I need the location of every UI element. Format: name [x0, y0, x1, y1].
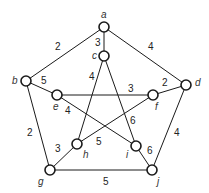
node-j [147, 165, 157, 175]
node-h [72, 139, 82, 149]
node-e [52, 90, 62, 100]
edge-weight-d-j: 4 [174, 127, 180, 138]
edge-weight-d-f: 2 [162, 77, 168, 88]
node-labels-layer: abcdefghij [12, 9, 201, 187]
node-label-a: a [101, 9, 107, 20]
node-f [148, 90, 158, 100]
edge-weight-i-j: 6 [147, 145, 153, 156]
node-a [99, 22, 109, 32]
weighted-graph-diagram: 243522454634536 abcdefghij [0, 0, 209, 193]
node-i [131, 141, 141, 151]
edges-layer [26, 27, 186, 170]
node-label-g: g [38, 176, 44, 187]
edge-c-h [77, 56, 104, 144]
node-label-f: f [155, 101, 159, 112]
edge-weight-b-g: 2 [27, 127, 33, 138]
edge-weight-a-b: 2 [55, 41, 61, 52]
node-g [45, 165, 55, 175]
node-label-h: h [83, 149, 89, 160]
edge-f-h [77, 95, 153, 144]
edge-weight-c-h: 4 [89, 71, 95, 82]
node-label-b: b [12, 75, 18, 86]
edge-weight-e-f: 3 [128, 83, 134, 94]
node-c [99, 51, 109, 61]
edge-c-i [104, 56, 136, 146]
node-d [181, 80, 191, 90]
node-label-j: j [155, 176, 160, 187]
node-label-e: e [53, 101, 59, 112]
edge-weight-c-i: 6 [130, 115, 136, 126]
edge-a-d [104, 27, 186, 85]
node-label-c: c [92, 50, 97, 61]
node-b [21, 76, 31, 86]
edge-weight-g-j: 5 [103, 176, 109, 187]
edge-weight-a-c: 3 [95, 37, 101, 48]
node-label-d: d [195, 77, 201, 88]
edge-b-g [26, 81, 50, 170]
edge-weight-f-h: 5 [96, 136, 102, 147]
node-label-i: i [126, 149, 129, 160]
edge-weight-b-e: 5 [41, 75, 47, 86]
edge-weight-g-h: 3 [55, 143, 61, 154]
nodes-layer [21, 22, 191, 175]
edge-weight-a-d: 4 [148, 41, 154, 52]
edge-weight-e-i: 4 [65, 105, 71, 116]
